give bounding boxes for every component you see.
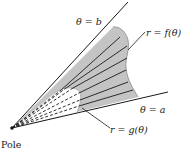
pointer-f [128, 32, 145, 50]
pointer-g [82, 108, 110, 128]
label-theta-b: θ = b [76, 16, 102, 27]
label-r-g: r = g(θ) [110, 124, 148, 135]
pole-point [10, 126, 14, 130]
polar-region-diagram: θ = b r = f(θ) θ = a r = g(θ) Pole [0, 0, 184, 153]
label-pole: Pole [1, 139, 22, 150]
label-theta-a: θ = a [140, 104, 166, 115]
label-r-f: r = f(θ) [146, 27, 181, 38]
